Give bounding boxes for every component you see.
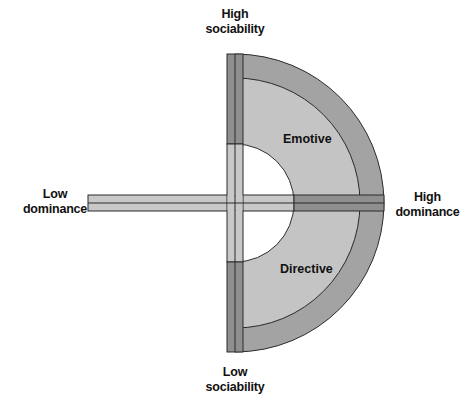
region-label-emotive: Emotive xyxy=(283,132,332,146)
axis-label-high-sociability: High sociability xyxy=(195,7,275,37)
axis-label-low-dominance: Low dominance xyxy=(20,187,90,217)
region-label-directive: Directive xyxy=(280,262,333,276)
axis-label-low-sociability: Low sociability xyxy=(195,365,275,395)
axis-label-high-dominance: High dominance xyxy=(390,190,465,220)
